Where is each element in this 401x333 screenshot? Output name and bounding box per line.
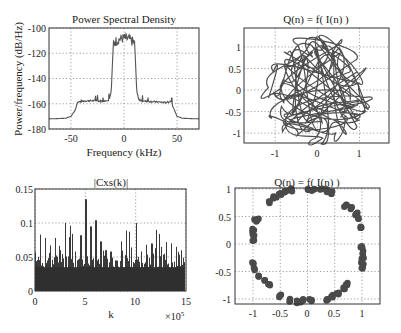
- y-tick: -120: [28, 48, 46, 59]
- x-tick: 50: [172, 133, 182, 144]
- y-tick: -1: [223, 294, 231, 305]
- y-tick: 0: [236, 85, 241, 96]
- x-tick: 0: [33, 296, 38, 307]
- constellation-x-ticks: -1 -0.5 0 0.5 1: [249, 308, 365, 319]
- x-tick: 1: [357, 148, 362, 159]
- cxs-x-label: k: [108, 308, 114, 320]
- psd-panel: Power Spectral Density -100 -120 -140 -1…: [0, 0, 200, 170]
- constellation-points: [249, 185, 367, 306]
- cxs-title: |Cxs(k)|: [94, 176, 128, 189]
- y-tick: -0.5: [225, 107, 241, 118]
- constellation-chart: Q(n) = f( I(n) ) 1 0.5 0 -0.5 -1 -1 -0.5…: [200, 170, 401, 333]
- x-tick: -1: [271, 148, 279, 159]
- cxs-bars: [35, 199, 185, 291]
- y-tick: 0.1: [21, 218, 34, 229]
- x-tick: 10: [130, 296, 140, 307]
- y-tick: 1: [226, 184, 231, 195]
- iq-trace-x-ticks: -1 0 1: [271, 148, 362, 159]
- cxs-x-ticks: 0 5 10 15: [33, 296, 192, 307]
- y-tick: -100: [28, 23, 46, 34]
- x-tick: 0.5: [328, 308, 341, 319]
- iq-trace-lines: [261, 35, 372, 145]
- y-tick: 0.05: [16, 252, 34, 263]
- x-tick: -50: [64, 133, 77, 144]
- constellation-panel: Q(n) = f( I(n) ) 1 0.5 0 -0.5 -1 -1 -0.5…: [200, 170, 401, 333]
- x-tick: 15: [181, 296, 191, 307]
- cxs-x-multiplier: ×105: [165, 310, 185, 322]
- psd-y-label: Power/frequency (dB/Hz): [12, 22, 25, 136]
- y-tick: -180: [28, 124, 46, 135]
- x-tick: 1: [360, 308, 365, 319]
- x-tick: 5: [83, 296, 88, 307]
- psd-title: Power Spectral Density: [72, 13, 176, 25]
- iq-trace-chart: Q(n) = f( I(n) ) 1 0.5 0 -0.5 -1 -1 0 1: [200, 0, 401, 170]
- y-tick: -0.5: [215, 267, 231, 278]
- x-tick: -0.5: [272, 308, 288, 319]
- psd-chart: Power Spectral Density -100 -120 -140 -1…: [0, 0, 200, 170]
- y-tick: -140: [28, 73, 46, 84]
- y-tick: 0: [226, 239, 231, 250]
- psd-y-ticks: -100 -120 -140 -160 -180: [28, 23, 46, 135]
- constellation-y-ticks: 1 0.5 0 -0.5 -1: [215, 184, 231, 305]
- y-tick: 1: [236, 42, 241, 53]
- iq-trace-panel: Q(n) = f( I(n) ) 1 0.5 0 -0.5 -1 -1 0 1: [200, 0, 401, 170]
- psd-x-ticks: -50 0 50: [64, 133, 182, 144]
- cxs-panel: |Cxs(k)| 0.15 0.1 0.05 0 0 5 10 15 k ×10…: [0, 170, 200, 333]
- x-tick: -1: [249, 308, 257, 319]
- cxs-y-ticks: 0.15 0.1 0.05 0: [16, 184, 34, 297]
- y-tick: -1: [233, 128, 241, 139]
- x-tick: 0: [305, 308, 310, 319]
- x-tick: 0: [315, 148, 320, 159]
- x-tick: 0: [122, 133, 127, 144]
- y-tick: 0.5: [229, 64, 242, 75]
- iq-trace-title: Q(n) = f( I(n) ): [283, 13, 349, 26]
- y-tick: 0.15: [16, 184, 34, 195]
- y-tick: -160: [28, 99, 46, 110]
- iq-trace-y-ticks: 1 0.5 0 -0.5 -1: [225, 42, 241, 139]
- iq-trace-axes-box: [244, 28, 389, 143]
- cxs-chart: |Cxs(k)| 0.15 0.1 0.05 0 0 5 10 15 k ×10…: [0, 170, 200, 333]
- psd-x-label: Frequency (kHz): [87, 146, 162, 159]
- y-tick: 0.5: [219, 212, 232, 223]
